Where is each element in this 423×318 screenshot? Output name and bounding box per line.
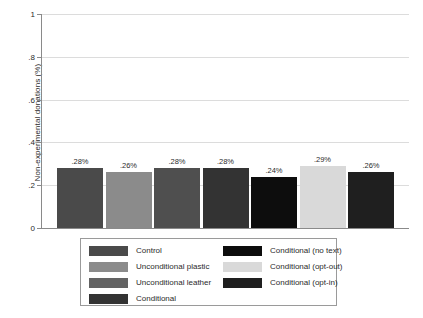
legend-swatch [89, 294, 128, 304]
legend-item-label: Unconditional leather [136, 278, 211, 287]
bar-value-label: .26% [362, 161, 379, 170]
legend-item[interactable]: Conditional (no text) [223, 243, 336, 258]
legend-swatch [223, 278, 262, 288]
legend-swatch [89, 278, 128, 288]
chart-legend: ControlUnconditional plasticUnconditiona… [80, 238, 337, 306]
legend-column-right: Conditional (no text)Conditional (opt-ou… [219, 243, 336, 305]
legend-item-label: Conditional [136, 294, 176, 303]
bar-value-label: .24% [265, 166, 282, 175]
legend-item-label: Conditional (opt-in) [270, 278, 338, 287]
y-axis-tick-label: .6 [28, 95, 35, 104]
bar-value-label: .28% [217, 157, 234, 166]
gridline [42, 57, 409, 58]
legend-item-label: Conditional (opt-out) [270, 262, 342, 271]
bar-value-label: .28% [71, 157, 88, 166]
y-axis-line [41, 14, 42, 229]
y-axis-tick-mark [37, 14, 41, 15]
legend-item[interactable]: Unconditional plastic [89, 259, 219, 274]
legend-item[interactable]: Unconditional leather [89, 275, 219, 290]
bar-value-label: .26% [120, 161, 137, 170]
bar: .26% [106, 172, 152, 228]
bar: .28% [203, 168, 249, 228]
y-axis-tick-mark [37, 142, 41, 143]
plot-area: 0.2.4.6.81 .28%.26%.28%.28%.24%.29%.26% [41, 14, 409, 229]
legend-swatch [223, 246, 262, 256]
legend-item-label: Control [136, 246, 162, 255]
legend-item-label: Unconditional plastic [136, 262, 209, 271]
bar: .28% [57, 168, 103, 228]
gridline [42, 14, 409, 15]
legend-swatch [89, 246, 128, 256]
legend-item-label: Conditional (no text) [270, 246, 342, 255]
y-axis-tick-mark [37, 228, 41, 229]
bar-value-label: .28% [168, 157, 185, 166]
y-axis-tick-label: 1 [31, 10, 35, 19]
y-axis-tick-label: .2 [28, 181, 35, 190]
bar: .26% [348, 172, 394, 228]
gridline [42, 100, 409, 101]
bar: .29% [300, 166, 346, 228]
bar: .28% [154, 168, 200, 228]
legend-item[interactable]: Conditional (opt-out) [223, 259, 336, 274]
gridline [42, 142, 409, 143]
y-axis-tick-mark [37, 100, 41, 101]
y-axis-tick-label: 0 [31, 224, 35, 233]
y-axis-tick-mark [37, 185, 41, 186]
y-axis-tick-label: .8 [28, 52, 35, 61]
legend-item[interactable]: Control [89, 243, 219, 258]
y-axis-tick-label: .4 [28, 138, 35, 147]
legend-column-left: ControlUnconditional plasticUnconditiona… [81, 243, 219, 305]
legend-swatch [89, 262, 128, 272]
legend-item[interactable]: Conditional [89, 291, 219, 306]
legend-swatch [223, 262, 262, 272]
legend-item[interactable]: Conditional (opt-in) [223, 275, 336, 290]
x-axis-line [41, 228, 409, 229]
y-axis-tick-mark [37, 57, 41, 58]
bar-chart-figure: Non-experimental donations (%) 0.2.4.6.8… [0, 0, 423, 318]
bar-value-label: .29% [314, 155, 331, 164]
bar: .24% [251, 177, 297, 228]
